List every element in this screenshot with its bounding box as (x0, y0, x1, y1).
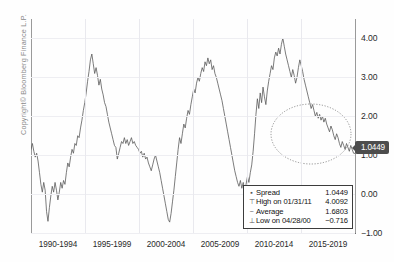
gridline-vertical (85, 19, 86, 233)
copyright-label: Copyright© Bloomberg Finance L.P. (19, 0, 28, 150)
gridline-horizontal (31, 233, 355, 234)
legend-value: 1.6803 (325, 207, 348, 216)
legend-marker-low-icon: ⊥ (247, 216, 256, 225)
x-axis-tick-label: 2015-2019 (309, 240, 347, 249)
legend-label: Low on 04/28/00 (256, 216, 325, 225)
legend-value: −0.716 (325, 216, 348, 225)
y-axis-tick-label: −1.00 (361, 228, 382, 238)
y-axis-tick-label: 0.00 (361, 189, 377, 199)
legend-row: ⊤ High on 01/31/11 4.0092 (247, 197, 348, 206)
chart-root: Copyright© Bloomberg Finance L.P. 4.003.… (0, 0, 394, 262)
gridline-vertical (193, 19, 194, 233)
legend-row: ▪ Spread 1.0449 (247, 188, 348, 197)
x-axis-tick-label: 2005-2009 (201, 240, 239, 249)
legend-marker-average-icon: − (247, 207, 256, 216)
x-axis-tick-label: 2000-2004 (147, 240, 185, 249)
legend-label: Average (256, 207, 325, 216)
chart-legend: ▪ Spread 1.0449 ⊤ High on 01/31/11 4.009… (243, 185, 353, 229)
legend-row: ⊥ Low on 04/28/00 −0.716 (247, 216, 348, 225)
y-axis-right-line (355, 19, 356, 234)
x-axis-tick-label: 1995-1999 (93, 240, 131, 249)
legend-marker-spread-icon: ▪ (247, 188, 256, 197)
y-axis-tick-label: 3.00 (361, 72, 377, 82)
legend-marker-high-icon: ⊤ (247, 197, 256, 206)
x-axis-tick-label: 2010-2014 (255, 240, 293, 249)
last-value-badge: 1.0449 (355, 141, 389, 154)
legend-row: − Average 1.6803 (247, 207, 348, 216)
x-axis-tick-label: 1990-1994 (39, 240, 77, 249)
y-axis-tick-label: 4.00 (361, 33, 377, 43)
legend-value: 1.0449 (325, 188, 348, 197)
legend-label: Spread (256, 188, 325, 197)
y-axis-tick-label: 2.00 (361, 111, 377, 121)
gridline-vertical (139, 19, 140, 233)
legend-value: 4.0092 (325, 197, 348, 206)
legend-label: High on 01/31/11 (256, 197, 325, 206)
